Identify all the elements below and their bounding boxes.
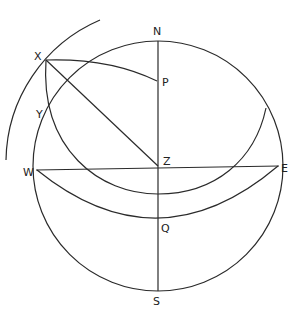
label-e: E <box>281 162 288 175</box>
label-p: P <box>162 76 169 89</box>
label-q: Q <box>161 222 170 235</box>
arc-x-p <box>46 60 157 81</box>
label-z: Z <box>163 155 171 168</box>
label-y: Y <box>35 108 43 121</box>
label-s: S <box>153 295 160 308</box>
celestial-sphere-diagram: N S E W Z P Q X Y <box>0 0 296 314</box>
label-n: N <box>153 25 161 38</box>
label-w: W <box>23 166 34 179</box>
label-x: X <box>34 50 42 63</box>
line-x-z <box>46 60 158 166</box>
outer-arc <box>6 20 100 160</box>
